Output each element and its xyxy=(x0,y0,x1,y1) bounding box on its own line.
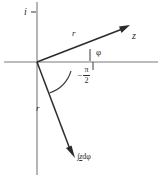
minus-half-pi-arc-group xyxy=(50,71,72,93)
vector-integral-label: ∫zdφ xyxy=(77,153,91,161)
minus-half-pi-angle-label: − π 2 xyxy=(77,66,90,85)
vector-z-shaft xyxy=(37,28,125,62)
vector-z-group xyxy=(37,25,130,62)
minus-half-pi-sign: − xyxy=(77,71,82,80)
vector-integral-shaft xyxy=(37,62,71,152)
vector-z-label: z xyxy=(132,31,136,41)
vector-z-arrowhead xyxy=(119,25,130,33)
integral-differential: dφ xyxy=(82,152,91,161)
vector-integral-magnitude-label: r xyxy=(36,104,40,113)
minus-half-pi-denominator: 2 xyxy=(84,76,90,85)
imaginary-axis-label: i xyxy=(24,7,27,17)
axes-group xyxy=(4,2,158,175)
phasor-diagram-canvas xyxy=(0,0,162,177)
minus-half-pi-fraction: π 2 xyxy=(83,66,90,85)
vector-z-magnitude-label: r xyxy=(72,29,76,38)
minus-half-pi-arc xyxy=(50,71,72,93)
phi-angle-label: φ xyxy=(96,48,101,57)
minus-half-pi-numerator: π xyxy=(84,66,90,75)
vector-integral-arrowhead xyxy=(66,146,75,159)
phi-angle-group xyxy=(90,49,93,70)
complex-plane-phasor-figure: i z r r φ − π 2 ∫zdφ xyxy=(0,0,162,177)
